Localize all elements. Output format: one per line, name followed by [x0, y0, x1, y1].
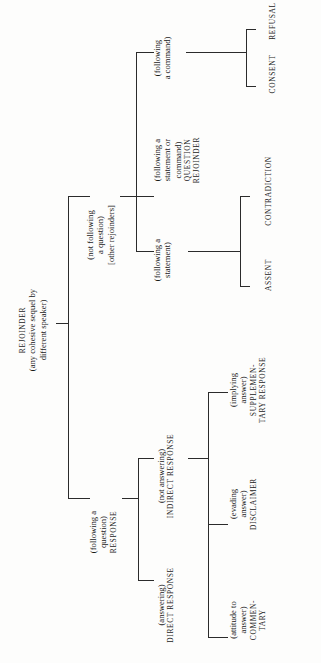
connector-indirect-arm-commentary	[208, 637, 228, 638]
node-other-rejoinders-label: [other rejoinders]	[106, 180, 116, 290]
node-question-rejoinder-label-2: REJOINDER	[192, 105, 201, 215]
node-indirect-response: (not answering) INDIRECT RESPONSE	[156, 412, 176, 540]
node-question-rejoinder-gloss-2: statement or	[162, 105, 172, 215]
node-direct-response-label: DIRECT RESPONSE	[166, 547, 175, 663]
node-response-label: RESPONSE	[109, 484, 118, 580]
node-indirect-response-gloss-1: (not answering)	[156, 412, 166, 540]
connector-response-arm-indirect	[138, 458, 154, 459]
connector-response-stub	[122, 498, 138, 499]
node-following-a-command-gloss-1: (following	[152, 16, 162, 100]
node-assent-label: ASSENT	[264, 240, 273, 310]
node-response: (following a question) RESPONSE	[88, 484, 118, 580]
connector-response-arm-direct	[138, 580, 154, 581]
connector-command-spine	[246, 29, 247, 86]
node-supplementary-response-label-2: TARY RESPONSE	[258, 338, 267, 442]
node-response-gloss-1: (following a	[88, 484, 98, 580]
node-commentary-gloss-2: answer)	[238, 577, 248, 663]
connector-root-arm-response	[68, 498, 90, 499]
node-disclaimer-gloss-1: (evading	[228, 458, 238, 550]
connector-command-arm-refusal	[246, 29, 256, 30]
node-commentary: (attitude to answer) COMMEN- TARY	[228, 577, 267, 663]
node-disclaimer: (evading answer) DISCLAIMER	[228, 458, 258, 550]
node-rejoinder: REJOINDER (any cohesive sequel by differ…	[18, 250, 48, 410]
connector-root-spine	[68, 196, 69, 499]
node-other-rejoinders: (not following a question) [other rejoin…	[85, 180, 116, 290]
connector-other-stub	[120, 196, 136, 197]
node-refusal: REFUSAL	[268, 0, 277, 56]
node-following-a-statement: (following a statement)	[152, 220, 173, 300]
node-disclaimer-label: DISCLAIMER	[249, 458, 258, 550]
node-supplementary-response-gloss-2: answer)	[238, 338, 248, 442]
connector-root-stub	[56, 323, 68, 324]
node-contradiction-label: CONTRADICTION	[264, 137, 273, 245]
node-supplementary-response: (implying answer) SUPPLEMEN- TARY RESPON…	[228, 338, 267, 442]
node-question-rejoinder: (following a statement or command) QUEST…	[152, 105, 202, 215]
node-supplementary-response-label-1: SUPPLEMEN-	[249, 338, 258, 442]
node-following-a-command: (following a command)	[152, 16, 173, 100]
node-rejoinder-gloss-1: (any cohesive sequel by	[27, 250, 37, 410]
node-question-rejoinder-label-1: QUESTION	[183, 105, 192, 215]
connector-indirect-spine	[208, 392, 209, 637]
node-other-rejoinders-gloss-2: a question)	[95, 180, 105, 290]
node-commentary-gloss-1: (attitude to	[228, 577, 238, 663]
connector-command-arm-consent	[246, 86, 256, 87]
node-assent: ASSENT	[264, 240, 273, 310]
node-disclaimer-gloss-2: answer)	[238, 458, 248, 550]
connector-response-spine	[138, 458, 139, 580]
node-rejoinder-label: REJOINDER	[18, 250, 27, 410]
node-rejoinder-gloss-2: different speaker)	[38, 250, 48, 410]
node-direct-response: (answering) DIRECT RESPONSE	[156, 547, 176, 663]
node-commentary-label-1: COMMEN-	[249, 577, 258, 663]
connector-indirect-stub	[188, 458, 208, 459]
node-question-rejoinder-gloss-3: command)	[173, 105, 183, 215]
connector-statement-spine	[240, 196, 241, 286]
node-indirect-response-label: INDIRECT RESPONSE	[166, 412, 175, 540]
connector-command-link	[186, 52, 246, 53]
connector-statement-arm-assent	[240, 286, 250, 287]
connector-indirect-arm-disclaimer	[208, 524, 228, 525]
diagram-canvas: REJOINDER (any cohesive sequel by differ…	[0, 0, 321, 663]
connector-indirect-arm-supplementary	[208, 392, 228, 393]
node-following-a-command-gloss-2: a command)	[162, 16, 172, 100]
connector-other-spine	[136, 52, 137, 251]
node-following-a-statement-gloss-2: statement)	[162, 220, 172, 300]
node-question-rejoinder-gloss-1: (following a	[152, 105, 162, 215]
node-commentary-label-2: TARY	[258, 577, 267, 663]
node-supplementary-response-gloss-1: (implying	[228, 338, 238, 442]
connector-statement-link	[206, 251, 240, 252]
node-following-a-statement-gloss-1: (following a	[152, 220, 162, 300]
connector-statement-stub	[188, 251, 206, 252]
node-contradiction: CONTRADICTION	[264, 137, 273, 245]
node-other-rejoinders-gloss-1: (not following	[85, 180, 95, 290]
connector-statement-arm-contradiction	[240, 196, 250, 197]
node-direct-response-gloss-1: (answering)	[156, 547, 166, 663]
node-refusal-label: REFUSAL	[268, 0, 277, 56]
node-response-gloss-2: question)	[98, 484, 108, 580]
